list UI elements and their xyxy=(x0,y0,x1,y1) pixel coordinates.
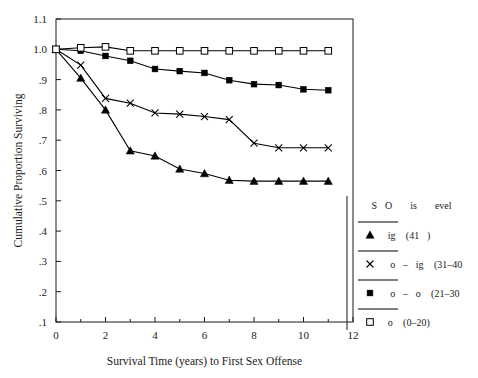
chart-canvas: 1.11.0.9.8.7.6.5.4.3.2.1024681012Surviva… xyxy=(0,0,478,378)
y-axis: 1.11.0.9.8.7.6.5.4.3.2.1 xyxy=(33,13,61,328)
legend-title: SO is evel xyxy=(356,200,452,211)
data-point-open-square xyxy=(325,48,332,55)
legend-entry-label:  o–o (21–30 xyxy=(380,288,459,300)
data-point-open-square xyxy=(127,48,134,55)
legend-entry-label: ig (41) xyxy=(380,230,430,242)
y-axis-title: Cumulative Proportion Surviving xyxy=(12,93,25,247)
x-tick-label: 6 xyxy=(202,329,208,341)
x-tick-label: 4 xyxy=(152,329,158,341)
data-point-open-square xyxy=(201,48,208,55)
data-point-filled-square xyxy=(226,77,232,83)
y-tick-label: .4 xyxy=(39,225,48,237)
data-point-filled-triangle xyxy=(176,165,184,172)
data-point-open-square xyxy=(226,48,233,55)
data-point-filled-square xyxy=(325,87,331,93)
data-point-filled-square xyxy=(177,68,183,74)
data-point-open-square xyxy=(176,48,183,55)
legend: SO is evelig (41) o–ig (31… xyxy=(347,196,462,330)
x-tick-label: 10 xyxy=(298,329,310,341)
x-tick-label: 12 xyxy=(348,329,359,341)
y-tick-label: .5 xyxy=(39,195,48,207)
y-tick-label: .9 xyxy=(39,74,48,86)
y-tick-label: .3 xyxy=(39,255,48,267)
x-tick-label: 0 xyxy=(53,329,59,341)
data-point-filled-square xyxy=(301,86,307,92)
x-axis: 024681012 xyxy=(53,317,358,341)
y-tick-label: 1.1 xyxy=(33,13,47,25)
data-point-filled-square xyxy=(276,82,282,88)
y-tick-label: .8 xyxy=(39,104,48,116)
data-point-open-square xyxy=(300,48,307,55)
data-point-open-square xyxy=(152,48,159,55)
data-point-filled-square xyxy=(251,81,257,87)
series-cross xyxy=(53,46,332,151)
survival-curve-figure: 1.11.0.9.8.7.6.5.4.3.2.1024681012Surviva… xyxy=(0,0,478,378)
y-tick-label: .1 xyxy=(39,316,47,328)
data-point-filled-square xyxy=(103,53,109,59)
data-point-filled-square xyxy=(152,66,158,72)
data-point-open-square xyxy=(367,319,374,326)
x-tick-label: 8 xyxy=(251,329,257,341)
legend-entry-label:  o–ig (31–40 xyxy=(380,259,462,271)
y-tick-label: 1.0 xyxy=(33,43,47,55)
x-axis-title: Survival Time (years) to First Sex Offen… xyxy=(107,355,302,368)
legend-entry-label: o (0–20) xyxy=(380,317,430,329)
data-point-open-square xyxy=(275,48,282,55)
y-tick-label: .2 xyxy=(39,286,47,298)
data-point-open-square xyxy=(251,48,258,55)
series-open-square xyxy=(53,44,332,55)
series-filled-square xyxy=(53,46,331,93)
y-tick-label: .7 xyxy=(39,134,48,146)
data-point-filled-triangle xyxy=(126,147,134,154)
data-point-filled-square xyxy=(127,58,133,64)
data-point-open-square xyxy=(77,44,84,51)
data-point-filled-square xyxy=(202,70,208,76)
series-filled-triangle xyxy=(52,45,332,184)
data-point-filled-triangle xyxy=(366,231,374,238)
data-point-filled-square xyxy=(367,290,373,296)
series-line xyxy=(56,47,328,51)
data-point-open-square xyxy=(53,46,60,53)
y-tick-label: .6 xyxy=(39,165,48,177)
x-tick-label: 2 xyxy=(103,329,109,341)
series-line xyxy=(56,49,328,90)
data-point-open-square xyxy=(102,44,109,51)
